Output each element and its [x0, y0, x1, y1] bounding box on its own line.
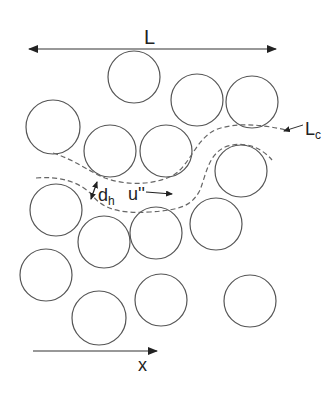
particle-circle	[20, 249, 72, 301]
porous-media-diagram: L Lc dh u'' x	[0, 0, 330, 395]
particle-circle	[72, 291, 126, 345]
velocity-arrow	[146, 192, 172, 194]
diagram-canvas: L Lc dh u'' x	[0, 0, 330, 395]
velocity-fluctuation-label: u''	[128, 184, 145, 204]
particle-circle	[26, 100, 80, 154]
particle-circle	[108, 51, 160, 103]
channel-upper-dashed-line	[53, 125, 290, 184]
particle-circle	[190, 198, 242, 250]
length-label: L	[144, 26, 155, 48]
particle-circle	[224, 275, 276, 327]
particle-circle	[226, 76, 278, 128]
particle-circle	[171, 74, 223, 126]
particle-circle	[130, 207, 182, 259]
particle-circle	[30, 184, 82, 236]
particle-group	[20, 51, 278, 345]
x-axis-label: x	[138, 355, 147, 375]
particle-circle	[140, 125, 192, 177]
channel-lower-dashed-line	[36, 144, 272, 212]
hydraulic-diameter-label: dh	[98, 185, 115, 208]
particle-circle	[135, 274, 187, 326]
characteristic-length-pointer	[284, 125, 303, 131]
hydraulic-diameter-arrow	[91, 182, 97, 199]
particle-circle	[84, 125, 136, 177]
characteristic-length-label: Lc	[305, 119, 321, 142]
particle-circle	[215, 145, 267, 197]
particle-circle	[78, 216, 130, 268]
